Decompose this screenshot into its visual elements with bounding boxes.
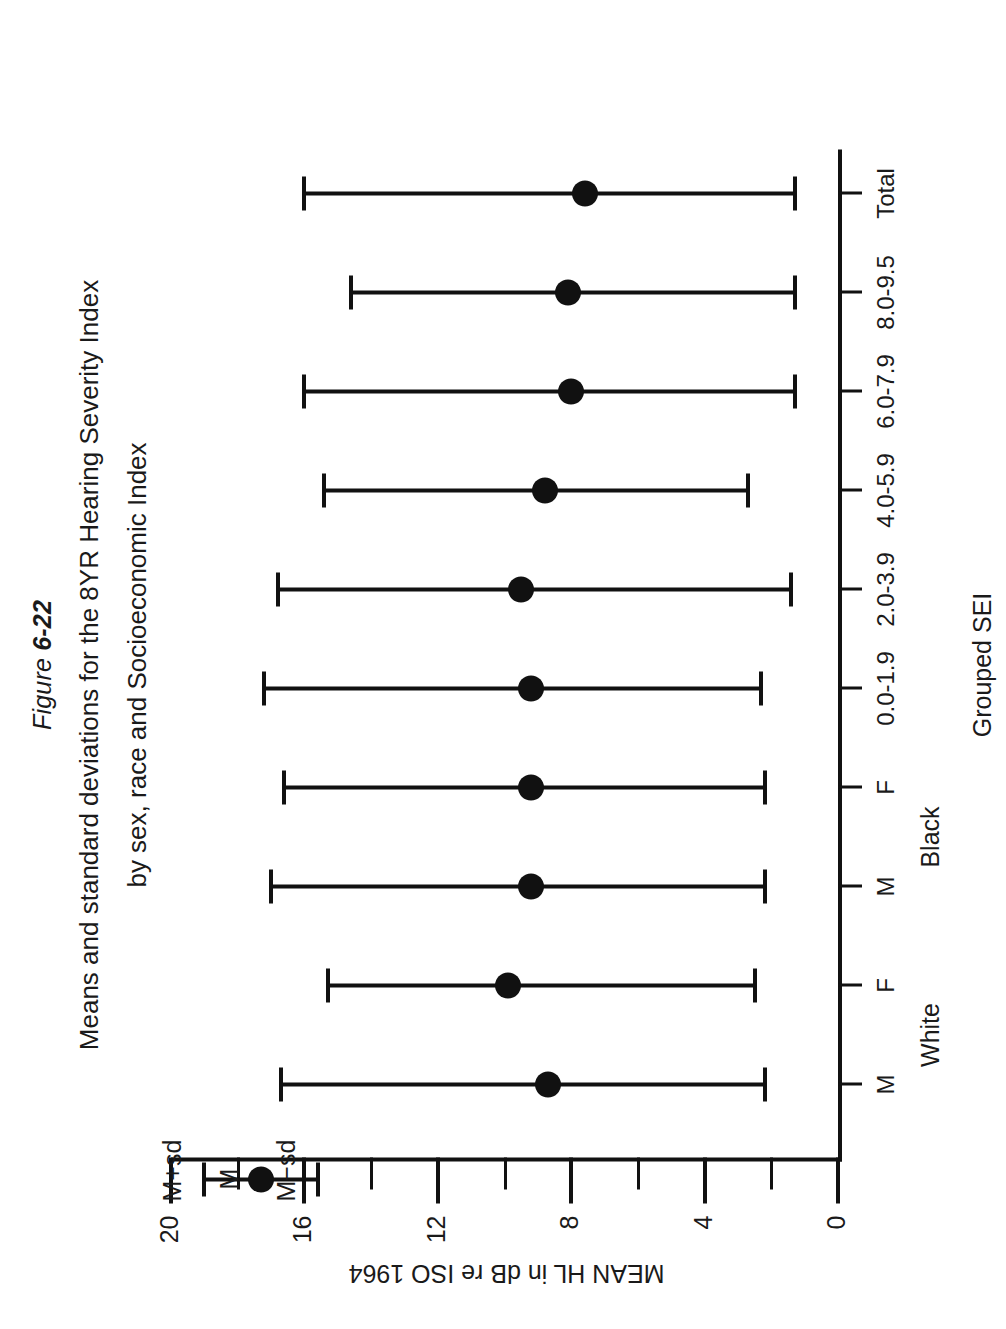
error-bar-lower-cap: [763, 770, 767, 804]
mean-marker: [495, 972, 521, 998]
error-bar-stem: [304, 389, 794, 393]
mean-marker: [572, 180, 598, 206]
error-bar-stem: [278, 587, 792, 591]
category-tick: [838, 884, 862, 887]
category-tick: [838, 1082, 862, 1085]
value-tick-major: [569, 1157, 573, 1203]
error-bar-upper-cap: [322, 473, 326, 507]
category-tick: [838, 389, 862, 392]
group-label-white: White: [916, 935, 945, 1135]
error-bar-chart: 201612840 MEAN HL in dB re ISO 1964 MFMF…: [0, 0, 1006, 1329]
error-bar-stem: [304, 191, 794, 195]
error-bar-upper-cap: [302, 176, 306, 210]
value-tick-major: [703, 1157, 707, 1203]
error-bar-lower-cap: [793, 176, 797, 210]
category-tick: [838, 983, 862, 986]
category-axis-line: [838, 149, 842, 1161]
error-bar-stem: [328, 983, 755, 987]
error-bar-lower-cap: [793, 374, 797, 408]
category-tick: [838, 290, 862, 293]
category-tick: [838, 488, 862, 491]
error-bar-stem: [264, 686, 761, 690]
mean-marker: [555, 279, 581, 305]
error-bar-upper-cap: [282, 770, 286, 804]
category-tick: [838, 686, 862, 689]
error-bar-upper-cap: [302, 374, 306, 408]
error-bar-upper-cap: [349, 275, 353, 309]
error-bar-lower-cap: [746, 473, 750, 507]
value-axis-title: MEAN HL in dB re ISO 1964: [171, 1258, 842, 1287]
error-bar-upper-cap: [262, 671, 266, 705]
error-bar-lower-cap: [753, 968, 757, 1002]
value-tick-minor: [504, 1157, 507, 1189]
key-lower-label: M−sd: [272, 1139, 301, 1201]
error-bar-lower-cap: [763, 1067, 767, 1101]
error-bar-stem: [281, 1082, 765, 1086]
mean-marker: [518, 774, 544, 800]
mean-marker: [508, 576, 534, 602]
category-tick: [838, 785, 862, 788]
mean-marker: [532, 477, 558, 503]
mean-marker: [558, 378, 584, 404]
mean-marker: [518, 873, 544, 899]
key-upper-label: M+sd: [158, 1139, 187, 1201]
key-upper-cap: [202, 1162, 206, 1196]
rotated-page-stage: Figure 6-22 Means and standard deviation…: [0, 0, 1006, 1329]
error-bar-lower-cap: [793, 275, 797, 309]
value-tick-minor: [637, 1157, 640, 1189]
value-tick-minor: [370, 1157, 373, 1189]
error-bar-lower-cap: [789, 572, 793, 606]
error-bar-upper-cap: [269, 869, 273, 903]
error-bar-upper-cap: [276, 572, 280, 606]
key-mean-label: M: [215, 1168, 244, 1189]
category-tick: [838, 587, 862, 590]
value-tick-major: [436, 1157, 440, 1203]
value-tick-minor: [770, 1157, 773, 1189]
mean-marker: [535, 1071, 561, 1097]
category-label-9: Total: [872, 133, 900, 253]
category-tick: [838, 191, 862, 194]
category-axis-title: Grouped SEI: [968, 0, 997, 1329]
error-bar-lower-cap: [763, 869, 767, 903]
error-bar-upper-cap: [326, 968, 330, 1002]
error-bar-upper-cap: [279, 1067, 283, 1101]
mean-marker: [518, 675, 544, 701]
group-label-black: Black: [916, 737, 945, 937]
value-tick-major: [836, 1157, 840, 1203]
error-bar-lower-cap: [759, 671, 763, 705]
key-mean-dot: [248, 1166, 274, 1192]
key-lower-cap: [316, 1162, 320, 1196]
